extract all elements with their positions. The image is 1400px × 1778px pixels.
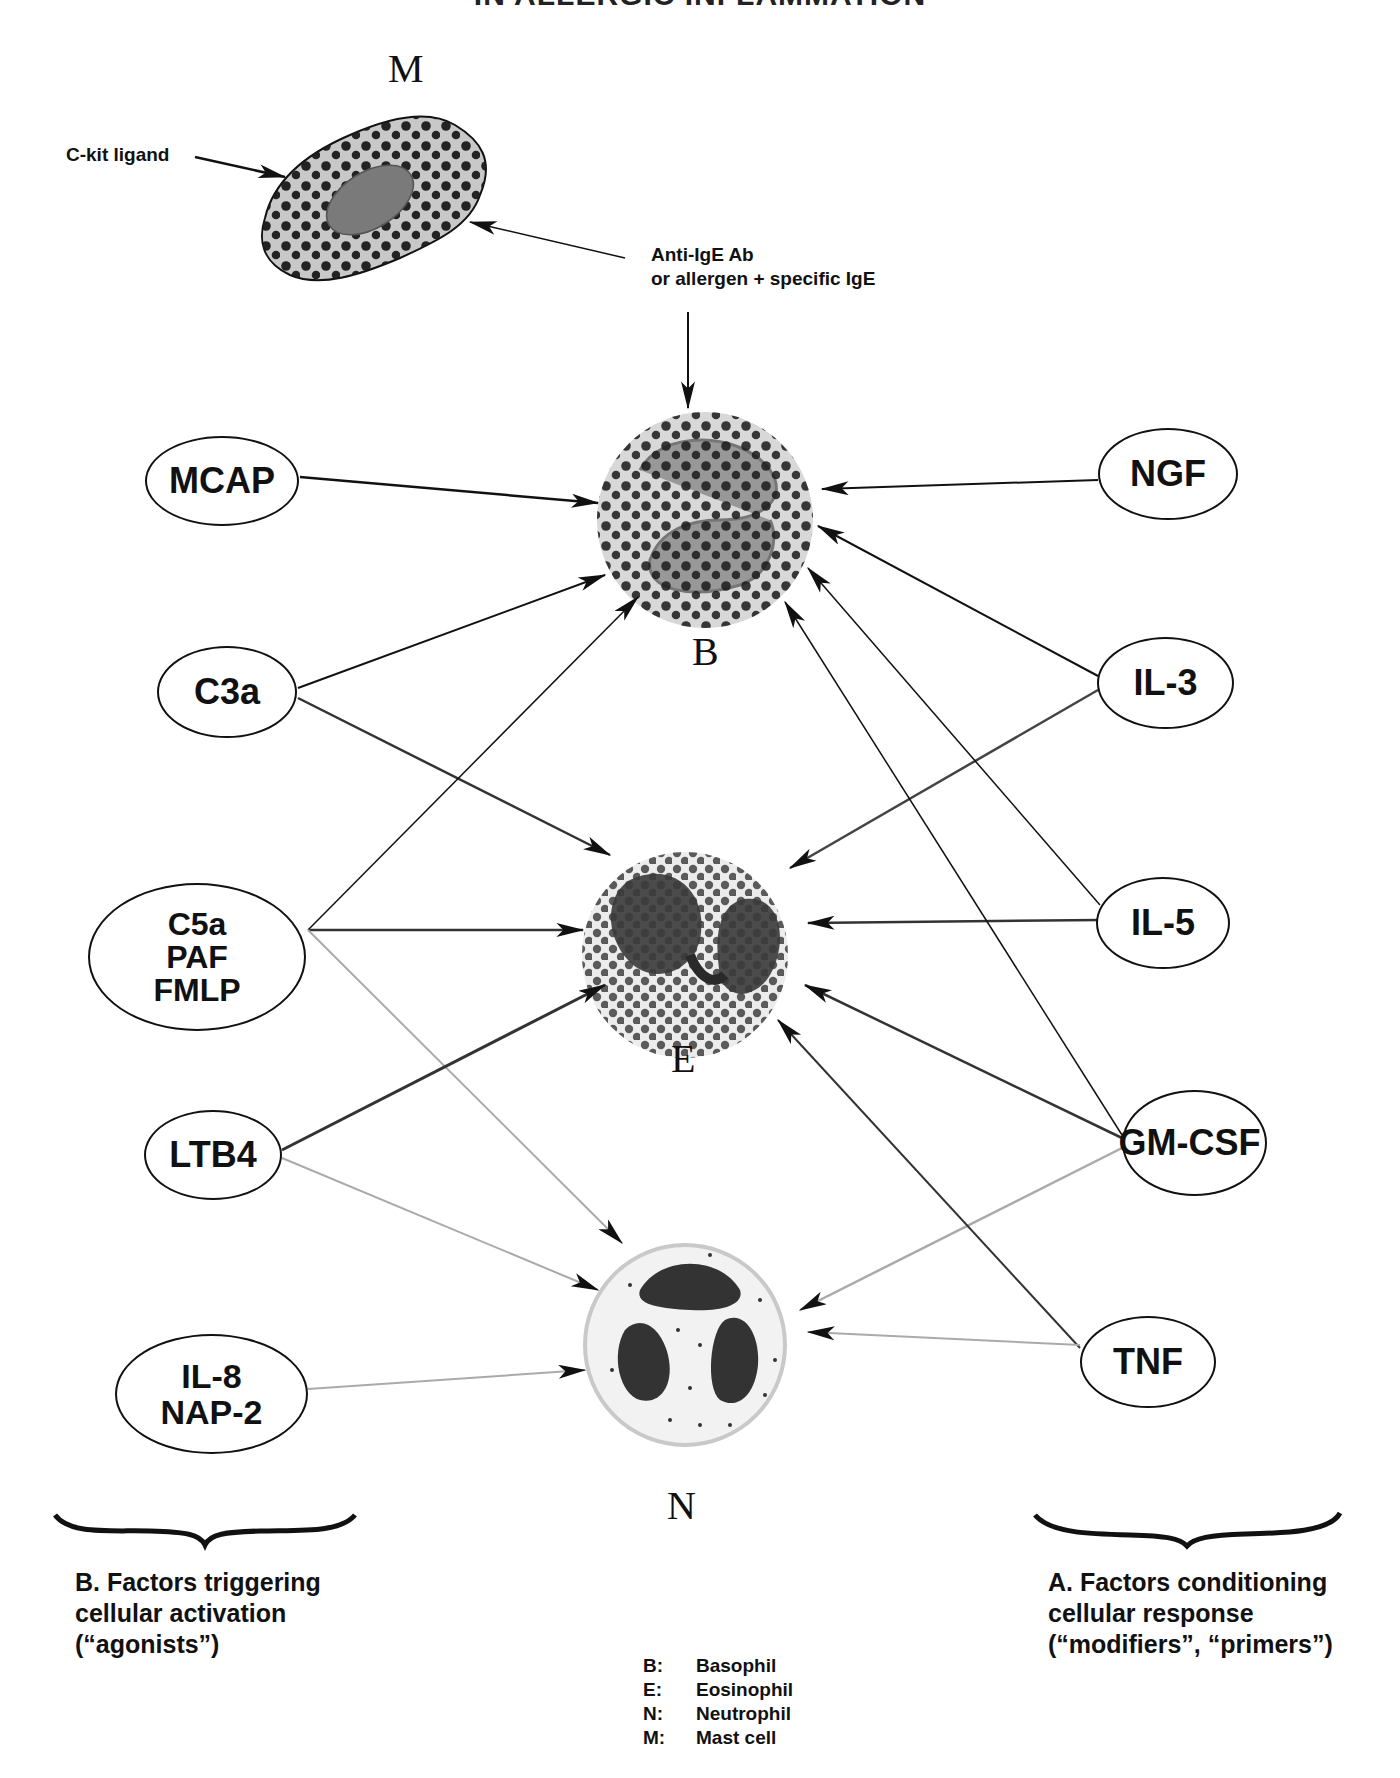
- oval-c5a-paf-fmlp: C5a PAF FMLP: [88, 883, 306, 1031]
- ngf-label: NGF: [1130, 456, 1206, 492]
- oval-il3: IL-3: [1097, 637, 1234, 729]
- oval-tnf: TNF: [1080, 1316, 1216, 1408]
- agonists-caption-line3: (“agonists”): [75, 1629, 321, 1660]
- legend-value: Eosinophil: [696, 1678, 793, 1702]
- agonists-caption-line1: B. Factors triggering: [75, 1567, 321, 1598]
- anti-ige-line1: Anti-IgE Ab: [651, 243, 875, 267]
- eosinophil-cell: [582, 852, 788, 1058]
- modifier-arrows: [778, 480, 1122, 1348]
- oval-ngf: NGF: [1098, 428, 1238, 520]
- legend-value: Mast cell: [696, 1726, 776, 1750]
- left-brace: [55, 1515, 355, 1545]
- ckit-arrow: [195, 157, 285, 177]
- mcap-label: MCAP: [169, 463, 275, 499]
- agonists-caption-line2: cellular activation: [75, 1598, 321, 1629]
- il5-label: IL-5: [1131, 905, 1195, 941]
- legend-value: Basophil: [696, 1654, 776, 1678]
- anti-ige-line2: or allergen + specific IgE: [651, 267, 875, 291]
- ltb4-label: LTB4: [169, 1137, 256, 1173]
- oval-ltb4: LTB4: [144, 1110, 282, 1200]
- mast-cell-label: M: [388, 45, 424, 92]
- neutrophil-cell: [585, 1245, 785, 1445]
- ckit-ligand-label: C-kit ligand: [66, 143, 169, 167]
- legend-value: Neutrophil: [696, 1702, 791, 1726]
- tnf-label: TNF: [1113, 1344, 1183, 1380]
- anti-ige-label: Anti-IgE Ab or allergen + specific IgE: [651, 243, 875, 291]
- right-brace: [1035, 1513, 1340, 1546]
- legend-key: E:: [643, 1678, 696, 1702]
- c5a-paf-fmlp-label: C5a PAF FMLP: [153, 908, 240, 1007]
- legend-row: N:Neutrophil: [643, 1702, 793, 1726]
- legend-row: B:Basophil: [643, 1654, 793, 1678]
- oval-il5: IL-5: [1096, 877, 1230, 969]
- neutrophil-label: N: [667, 1482, 696, 1529]
- oval-il8-nap2: IL-8 NAP-2: [115, 1334, 308, 1454]
- legend-key: M:: [643, 1726, 696, 1750]
- anti-ige-mast-arrow: [470, 222, 625, 258]
- c3a-label: C3a: [194, 674, 260, 710]
- modifiers-caption: A. Factors conditioning cellular respons…: [1048, 1567, 1333, 1660]
- modifiers-caption-line3: (“modifiers”, “primers”): [1048, 1629, 1333, 1660]
- mast-cell: [262, 116, 486, 280]
- oval-mcap: MCAP: [145, 436, 299, 526]
- modifiers-caption-line1: A. Factors conditioning: [1048, 1567, 1333, 1598]
- eosinophil-label: E: [671, 1035, 695, 1082]
- il8-nap2-label: IL-8 NAP-2: [160, 1358, 262, 1430]
- legend-key: N:: [643, 1702, 696, 1726]
- legend-row: E:Eosinophil: [643, 1678, 793, 1702]
- legend-key: B:: [643, 1654, 696, 1678]
- modifiers-caption-line2: cellular response: [1048, 1598, 1333, 1629]
- oval-c3a: C3a: [157, 646, 297, 738]
- oval-gm-csf: GM-CSF: [1122, 1090, 1267, 1196]
- cell-legend: B:Basophil E:Eosinophil N:Neutrophil M:M…: [643, 1654, 793, 1750]
- il3-label: IL-3: [1133, 665, 1197, 701]
- legend-row: M:Mast cell: [643, 1726, 793, 1750]
- basophil-cell: [597, 412, 813, 628]
- basophil-label: B: [692, 628, 719, 675]
- agonists-caption: B. Factors triggering cellular activatio…: [75, 1567, 321, 1660]
- gm-csf-label: GM-CSF: [1119, 1125, 1261, 1161]
